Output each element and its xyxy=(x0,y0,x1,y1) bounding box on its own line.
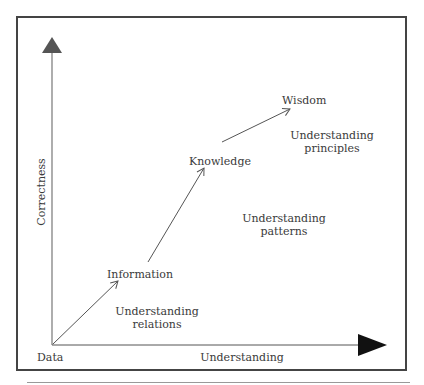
transition-label-principles: Understanding principles xyxy=(290,129,374,155)
transition-label-patterns: Understanding patterns xyxy=(242,212,326,238)
transition-line-1: Understanding xyxy=(290,129,374,142)
origin-label-data: Data xyxy=(37,351,63,364)
arrow-information-to-knowledge xyxy=(148,168,204,262)
stage-label-knowledge: Knowledge xyxy=(189,155,251,168)
stage-label-information: Information xyxy=(107,268,173,281)
x-axis-arrowhead-icon xyxy=(358,334,387,356)
arrow-data-to-information xyxy=(53,281,118,344)
stage-label-wisdom: Wisdom xyxy=(282,94,326,107)
transition-line-2: patterns xyxy=(242,225,326,238)
transition-line-2: relations xyxy=(115,318,199,331)
transition-line-2: principles xyxy=(290,142,374,155)
transition-line-1: Understanding xyxy=(242,212,326,225)
y-axis-arrowhead-icon xyxy=(42,37,62,53)
diagram-graphics xyxy=(0,0,424,385)
y-axis-label: Correctness xyxy=(35,158,48,226)
arrow-knowledge-to-wisdom xyxy=(222,109,290,142)
transition-label-relations: Understanding relations xyxy=(115,305,199,331)
x-axis-label: Understanding xyxy=(200,351,284,364)
transition-line-1: Understanding xyxy=(115,305,199,318)
